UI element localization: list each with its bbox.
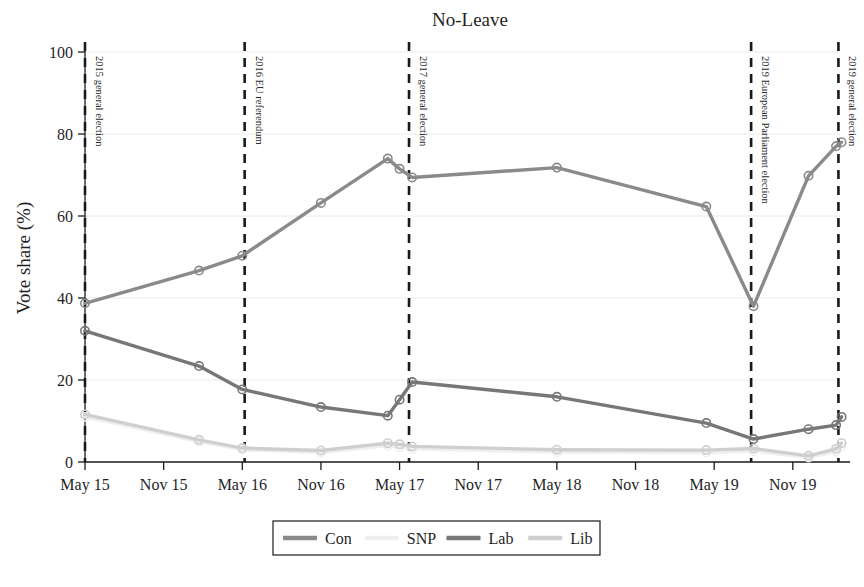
- legend-label: Lib: [570, 530, 592, 547]
- chart-title: No-Leave: [432, 9, 508, 30]
- event-line-label: 2017 general election: [418, 56, 429, 147]
- legend-label: Lab: [489, 530, 514, 547]
- y-axis-tick-label: 100: [49, 44, 73, 61]
- event-line-label: 2015 general election: [94, 56, 105, 147]
- x-axis-tick-label: May 15: [60, 476, 109, 494]
- y-axis-tick-label: 60: [57, 208, 73, 225]
- y-axis-tick-label: 40: [57, 290, 73, 307]
- y-axis-tick-label: 20: [57, 372, 73, 389]
- event-line-label: 2019 European Parliament election: [760, 56, 771, 205]
- y-axis-title: Vote share (%): [13, 202, 35, 315]
- vote-share-line-chart: No-Leave Vote share (%) 020406080100 May…: [0, 0, 864, 587]
- event-line-label: 2016 EU referendum: [254, 56, 265, 145]
- legend-label: SNP: [407, 530, 436, 547]
- x-axis-tick-label: Nov 19: [769, 476, 817, 493]
- x-axis-tick-label: May 18: [532, 476, 581, 494]
- x-axis-tick-label: Nov 15: [140, 476, 188, 493]
- chart-background: [0, 0, 864, 587]
- event-line-label: 2019 general election: [847, 56, 858, 147]
- legend-label: Con: [325, 530, 352, 547]
- x-axis-tick-label: Nov 16: [297, 476, 345, 493]
- x-axis-tick-label: May 17: [375, 476, 424, 494]
- y-axis-tick-label: 0: [65, 454, 73, 471]
- chart-container: No-Leave Vote share (%) 020406080100 May…: [0, 0, 864, 587]
- chart-legend: ConSNPLabLib: [273, 521, 600, 555]
- x-axis-tick-label: Nov 17: [454, 476, 502, 493]
- x-axis-tick-label: Nov 18: [612, 476, 660, 493]
- x-axis-tick-label: May 19: [690, 476, 739, 494]
- x-axis-tick-label: May 16: [218, 476, 267, 494]
- y-axis-tick-label: 80: [57, 126, 73, 143]
